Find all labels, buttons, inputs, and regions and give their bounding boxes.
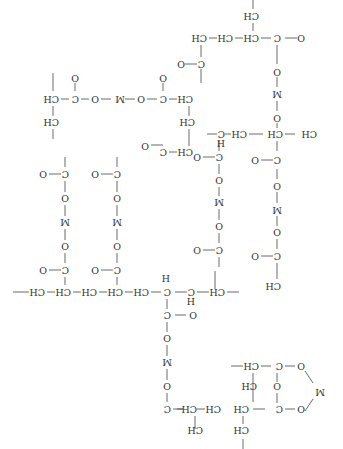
- chain-bottom-ester-pair: CH CH C O O M O C CH CH: [231, 361, 325, 449]
- atom-m: M: [115, 94, 125, 105]
- atom-o: O: [141, 141, 149, 152]
- atom-o: O: [163, 333, 171, 344]
- atom-ch2: CH: [217, 33, 233, 44]
- polymer-crosslink-diagram: CH CH C O O M O C CH CH CH CH: [0, 0, 343, 449]
- atom-o: O: [113, 193, 121, 204]
- atom-o: O: [297, 361, 305, 372]
- atom-o: O: [251, 155, 259, 166]
- atom-m: M: [272, 89, 282, 100]
- atom-c: C: [216, 245, 223, 256]
- atom-c: C: [114, 169, 121, 180]
- atom-o: O: [159, 73, 167, 84]
- atom-o: O: [251, 251, 259, 262]
- atom-o: O: [91, 265, 99, 276]
- atom-o: O: [273, 381, 281, 392]
- atom-ch2: CH: [43, 117, 59, 128]
- atom-c: C: [198, 59, 205, 70]
- atom-o: O: [163, 381, 171, 392]
- atom-o: O: [61, 193, 69, 204]
- chain-top: C O O M O CH CH CH CH C O: [177, 0, 305, 128]
- atom-m: M: [315, 387, 325, 398]
- atom-o: O: [273, 227, 281, 238]
- atom-c: C: [216, 152, 223, 163]
- atom-c: C: [114, 265, 121, 276]
- atom-o: O: [137, 94, 145, 105]
- atom-o: O: [39, 265, 47, 276]
- atom-c: C: [276, 361, 283, 372]
- atom-ch: CH: [243, 361, 259, 372]
- atom-o: O: [215, 221, 223, 232]
- atom-m: M: [112, 217, 122, 228]
- atom-h: H: [162, 273, 170, 284]
- atom-m: M: [214, 197, 224, 208]
- atom-c: C: [160, 147, 167, 158]
- atom-ch2: CH: [81, 287, 97, 298]
- atom-c: C: [274, 251, 281, 262]
- structure-svg: CH CH C O O M O C CH CH CH CH: [0, 0, 343, 449]
- atom-ch2: CH: [231, 129, 247, 140]
- atom-ch2: CH: [301, 129, 317, 140]
- atom-ch2: CH: [243, 11, 259, 22]
- atom-ch: CH: [43, 94, 59, 105]
- atom-ch: CH: [205, 404, 221, 415]
- atom-ch2: CH: [209, 287, 225, 298]
- atom-c: C: [164, 310, 171, 321]
- atom-o: O: [71, 73, 79, 84]
- atom-h: H: [217, 138, 225, 149]
- atom-o: O: [61, 241, 69, 252]
- atom-ch: CH: [177, 94, 193, 105]
- atom-m: M: [162, 357, 172, 368]
- atom-o: O: [113, 241, 121, 252]
- atom-m: M: [272, 205, 282, 216]
- atom-o: O: [273, 181, 281, 192]
- atom-ch2: CH: [265, 281, 281, 292]
- atom-o: O: [193, 152, 201, 163]
- bridge-4: C O O M O C O: [193, 141, 224, 267]
- atom-ch2: CH: [179, 117, 195, 128]
- atom-ch2: CH: [181, 404, 197, 415]
- chain-upper: CH C O CH CH C O O M O C O CH C: [43, 73, 195, 158]
- atom-o: O: [297, 404, 305, 415]
- atom-o: O: [273, 113, 281, 124]
- atom-ch2: CH: [29, 287, 45, 298]
- atom-o: O: [189, 310, 197, 321]
- atom-o: O: [177, 59, 185, 70]
- atom-c: C: [164, 287, 171, 298]
- atom-c: C: [62, 169, 69, 180]
- atom-o: O: [297, 33, 305, 44]
- atom-ch: CH: [107, 287, 123, 298]
- atom-o: O: [39, 169, 47, 180]
- atom-ch: CH: [55, 287, 71, 298]
- atom-ch: CH: [191, 33, 207, 44]
- atom-c: C: [274, 33, 281, 44]
- atom-c: C: [274, 155, 281, 166]
- upright-structure: CH CH C O O M O C CH CH CH CH: [13, 0, 325, 449]
- atom-c: C: [276, 404, 283, 415]
- atom-ch: CH: [233, 404, 249, 415]
- atom-c: C: [72, 94, 79, 105]
- atom-ch2: CH: [241, 381, 257, 392]
- atom-o: O: [91, 94, 99, 105]
- atom-o: O: [273, 67, 281, 78]
- atom-m: M: [60, 217, 70, 228]
- bridge-2: C O O M O C O: [91, 157, 122, 285]
- bridge-3: C O O M O C O: [39, 157, 70, 285]
- atom-o: O: [215, 175, 223, 186]
- atom-ch2: CH: [133, 287, 149, 298]
- atom-ch: CH: [267, 129, 283, 140]
- atom-ch: CH: [243, 33, 259, 44]
- atom-o: O: [91, 169, 99, 180]
- atom-ch2: CH: [233, 425, 249, 436]
- atom-c: C: [160, 94, 167, 105]
- atom-ch: CH: [177, 147, 193, 158]
- atom-h: H: [187, 296, 195, 307]
- atom-c: C: [164, 404, 171, 415]
- atom-c: C: [62, 265, 69, 276]
- atom-o: O: [193, 245, 201, 256]
- atom-ch2: CH: [187, 425, 203, 436]
